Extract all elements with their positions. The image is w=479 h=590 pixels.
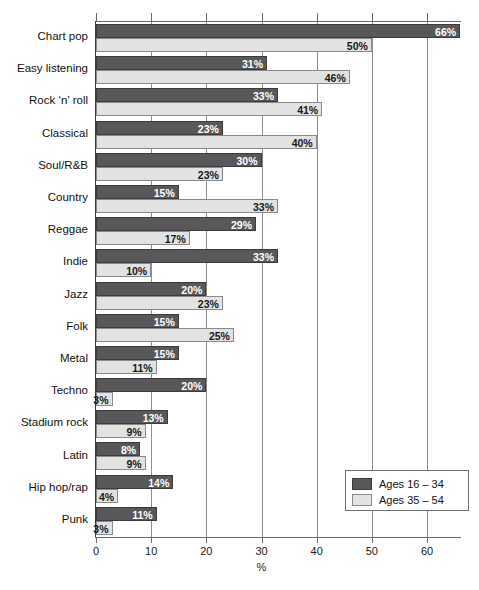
bar[interactable]: 17% — [96, 231, 190, 245]
axis-tick-bottom — [96, 537, 97, 543]
bar-group: 29%17% — [96, 215, 461, 245]
bar-value-label: 10% — [126, 264, 147, 278]
axis-tick-top — [96, 13, 97, 21]
category-label: Punk — [0, 513, 88, 525]
bar[interactable]: 20% — [96, 378, 206, 392]
bar[interactable]: 31% — [96, 56, 267, 70]
bar-value-label: 25% — [209, 329, 230, 343]
bar[interactable]: 15% — [96, 185, 179, 199]
bar-row: 50% — [96, 38, 461, 52]
light-gray-swatch-icon — [352, 494, 372, 506]
bar[interactable]: 4% — [96, 489, 118, 503]
bar-row: 33% — [96, 88, 461, 102]
axis-tick-bottom — [317, 537, 318, 543]
axis-tick-top — [427, 13, 428, 21]
bar[interactable]: 9% — [96, 424, 146, 438]
bar-row: 3% — [96, 392, 461, 406]
bar[interactable]: 23% — [96, 121, 223, 135]
bar-group: 20%3% — [96, 376, 461, 406]
bar-row: 33% — [96, 199, 461, 213]
bar-row: 11% — [96, 360, 461, 374]
bar[interactable]: 8% — [96, 442, 140, 456]
bar-row: 9% — [96, 424, 461, 438]
bar[interactable]: 15% — [96, 314, 179, 328]
bar[interactable]: 50% — [96, 38, 372, 52]
bar[interactable]: 3% — [96, 521, 113, 535]
bar-group: 23%40% — [96, 119, 461, 149]
legend-item: Ages 16 – 34 — [352, 476, 462, 491]
bar-value-label: 33% — [253, 250, 274, 264]
bar-value-label: 23% — [198, 168, 219, 182]
bar[interactable]: 15% — [96, 346, 179, 360]
bar[interactable]: 14% — [96, 475, 173, 489]
bar[interactable]: 20% — [96, 282, 206, 296]
bar[interactable]: 46% — [96, 70, 350, 84]
x-tick-label: 50 — [366, 545, 378, 557]
dark-gray-swatch-icon — [352, 478, 372, 490]
bar-value-label: 11% — [132, 508, 152, 522]
bar[interactable]: 9% — [96, 456, 146, 470]
axis-tick-top — [151, 13, 152, 21]
bar[interactable]: 3% — [96, 392, 113, 406]
bar[interactable]: 66% — [96, 24, 460, 38]
x-tick-label: 0 — [93, 545, 99, 557]
bar-value-label: 15% — [154, 186, 175, 200]
axis-tick-top — [372, 13, 373, 21]
bar-row: 9% — [96, 456, 461, 470]
category-label: Folk — [0, 320, 88, 332]
bar[interactable]: 33% — [96, 249, 278, 263]
x-axis-title: % — [257, 561, 267, 573]
bar-value-label: 29% — [231, 218, 252, 232]
bar-value-label: 30% — [236, 154, 257, 168]
bar-row: 17% — [96, 231, 461, 245]
bar-row: 29% — [96, 217, 461, 231]
bar-value-label: 15% — [154, 347, 175, 361]
bar[interactable]: 11% — [96, 360, 157, 374]
bar-row: 30% — [96, 153, 461, 167]
legend-item-label: Ages 35 – 54 — [379, 494, 444, 506]
legend-item: Ages 35 – 54 — [352, 492, 462, 507]
bar-value-label: 15% — [154, 315, 175, 329]
bar-row: 31% — [96, 56, 461, 70]
bar[interactable]: 29% — [96, 217, 256, 231]
bar[interactable]: 30% — [96, 153, 262, 167]
category-label: Easy listening — [0, 62, 88, 74]
x-tick-label: 30 — [255, 545, 267, 557]
bar-value-label: 23% — [198, 297, 219, 311]
bar[interactable]: 41% — [96, 102, 322, 116]
category-label: Techno — [0, 384, 88, 396]
axis-tick-bottom — [262, 537, 263, 543]
category-label: Jazz — [0, 288, 88, 300]
legend-item-label: Ages 16 – 34 — [379, 478, 444, 490]
bar-group: 15%25% — [96, 312, 461, 342]
bar-group: 66%50% — [96, 22, 461, 52]
bar-value-label: 3% — [93, 522, 108, 536]
bar-value-label: 11% — [132, 361, 152, 375]
bar-value-label: 66% — [435, 25, 456, 39]
bar[interactable]: 40% — [96, 135, 317, 149]
bar-row: 15% — [96, 185, 461, 199]
bar[interactable]: 10% — [96, 263, 151, 277]
bar[interactable]: 25% — [96, 328, 234, 342]
bar[interactable]: 13% — [96, 410, 168, 424]
bar-row: 23% — [96, 296, 461, 310]
bar[interactable]: 11% — [96, 507, 157, 521]
bar-group: 13%9% — [96, 408, 461, 438]
bar-group: 15%33% — [96, 183, 461, 213]
bar[interactable]: 33% — [96, 88, 278, 102]
axis-tick-bottom — [427, 537, 428, 543]
bar-chart: 0102030405060 66%50%31%46%33%41%23%40%30… — [0, 0, 479, 590]
plot-area: 66%50%31%46%33%41%23%40%30%23%15%33%29%1… — [96, 22, 461, 537]
bar-row: 10% — [96, 263, 461, 277]
bar-value-label: 13% — [143, 411, 164, 425]
bar-row: 15% — [96, 314, 461, 328]
bar[interactable]: 33% — [96, 199, 278, 213]
bar[interactable]: 23% — [96, 296, 223, 310]
bar-value-label: 33% — [253, 200, 274, 214]
x-tick-label: 10 — [145, 545, 157, 557]
legend: Ages 16 – 34 Ages 35 – 54 — [345, 470, 469, 511]
bar-group: 33%41% — [96, 86, 461, 116]
bar-value-label: 41% — [297, 103, 318, 117]
bar-row: 46% — [96, 70, 461, 84]
bar[interactable]: 23% — [96, 167, 223, 181]
